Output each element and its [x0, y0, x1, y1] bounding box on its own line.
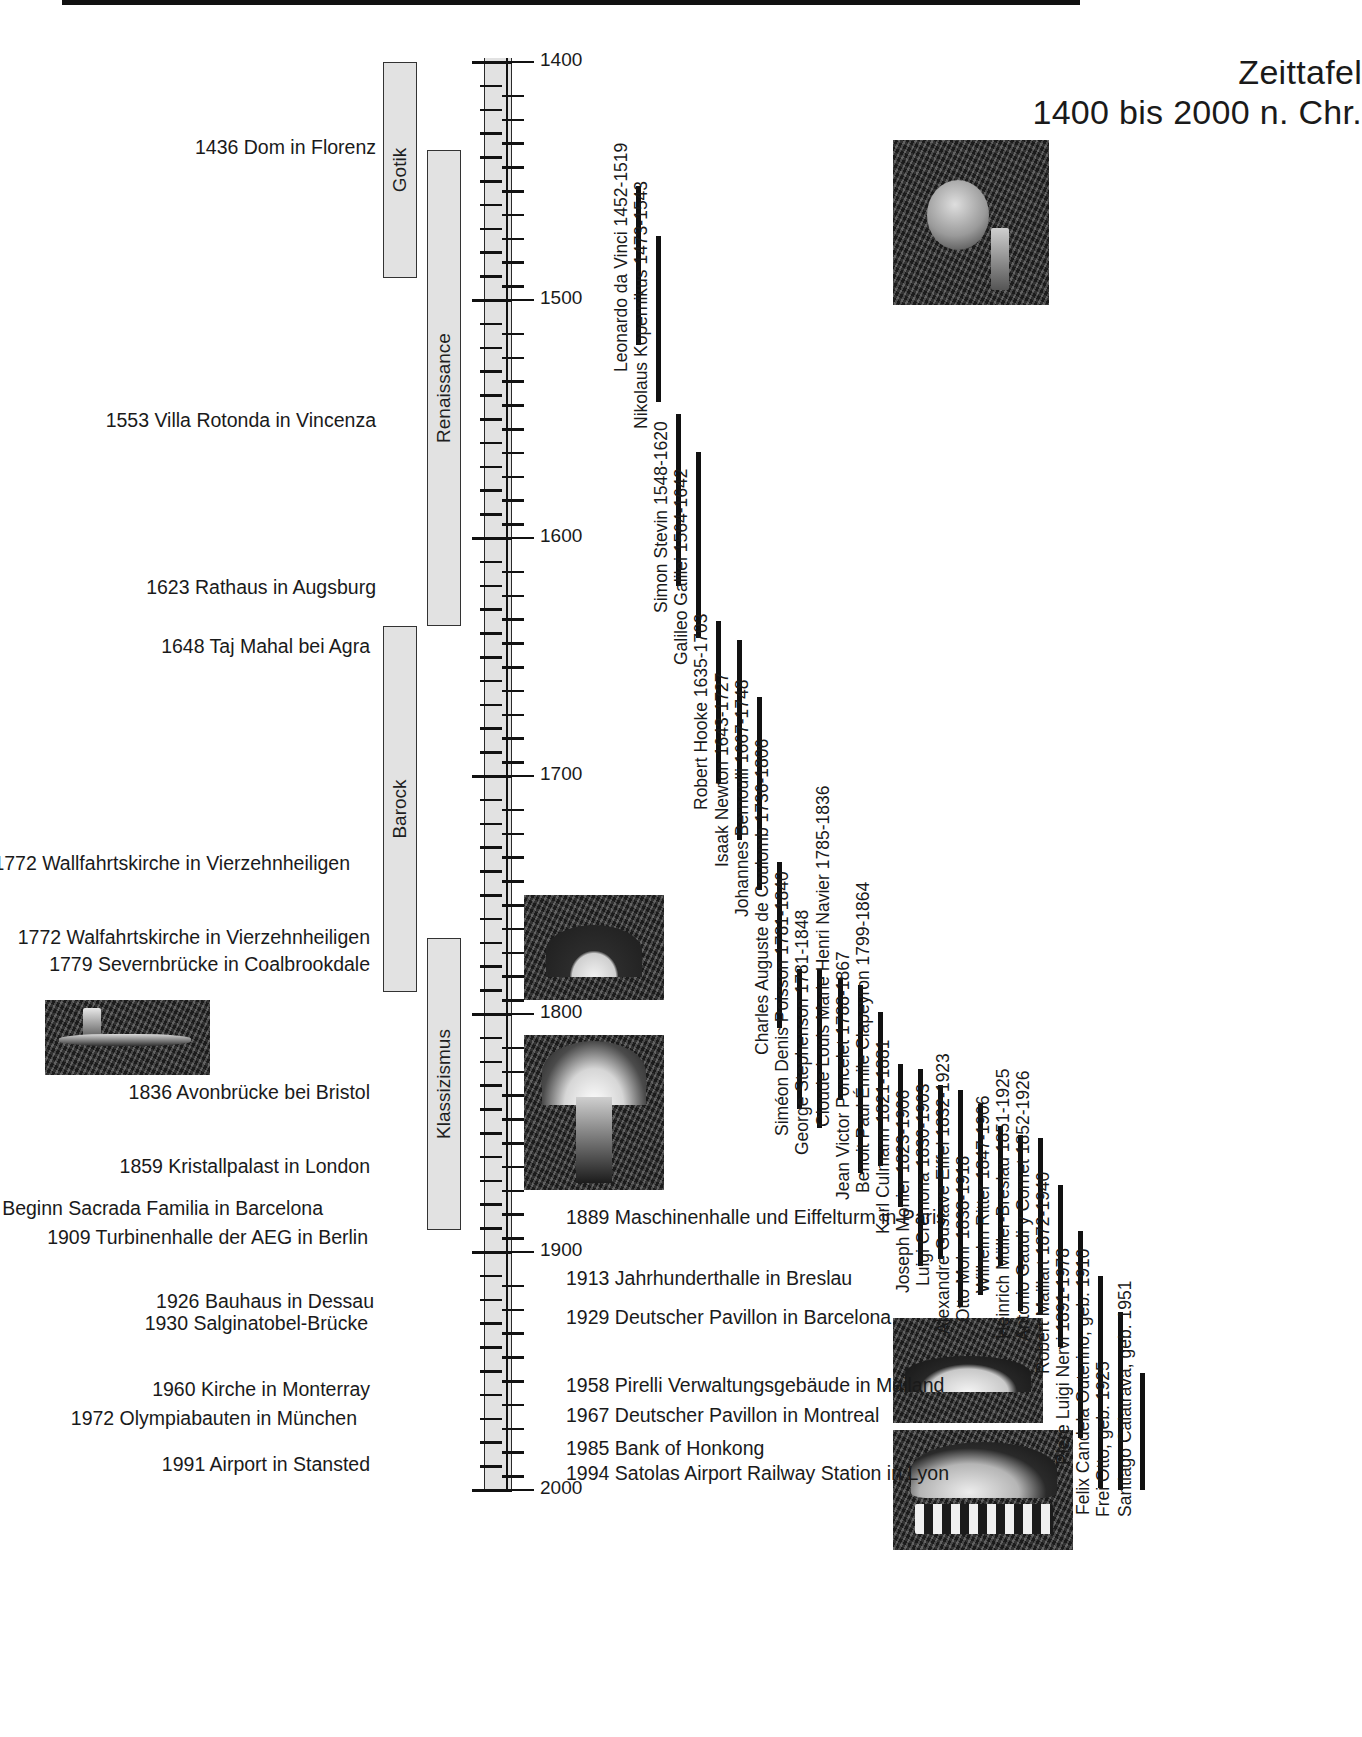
event-label-left: 1991 Airport in Stansted: [162, 1453, 370, 1476]
timeline-tick-minor: [502, 904, 524, 907]
person-name-label: Isaak Newton 1643-1727: [712, 673, 733, 868]
header-rule: [62, 0, 1080, 5]
event-label-left: 1972 Olympiabauten in München: [71, 1407, 357, 1430]
timeline-tick-minor: [480, 942, 502, 945]
tick-leader-line: [506, 61, 534, 63]
timeline-tick-minor: [480, 1370, 502, 1373]
event-label-right: 1958 Pirelli Verwaltungsgebäude in Maila…: [566, 1374, 944, 1397]
timeline-tick-minor: [502, 880, 524, 883]
tick-leader-line: [506, 299, 534, 301]
timeline-tick-minor: [480, 323, 502, 326]
person-name-label: Nikolaus Kopernikus 1473-1543: [631, 181, 652, 429]
era-bar-klassizismus: Klassizismus: [427, 938, 461, 1230]
title-line-2: 1400 bis 2000 n. Chr.: [1032, 92, 1362, 132]
timeline-tick-minor: [502, 190, 524, 193]
timeline-tick-label: 1600: [540, 525, 582, 547]
timeline-tick-minor: [502, 1285, 524, 1288]
event-label-right: 1994 Satolas Airport Railway Station in …: [566, 1462, 949, 1485]
event-label-left: 1648 Taj Mahal bei Agra: [161, 635, 370, 658]
timeline-tick-minor: [480, 846, 502, 849]
timeline-tick-minor: [502, 166, 524, 169]
timeline-tick-minor: [502, 119, 524, 122]
timeline-tick-minor: [502, 1451, 524, 1454]
page-title: Zeittafel 1400 bis 2000 n. Chr.: [1032, 52, 1362, 132]
timeline-tick-minor: [502, 856, 524, 859]
person-lifespan-bar: [696, 452, 701, 638]
timeline-tick-minor: [502, 1142, 524, 1145]
timeline-tick-label: 1900: [540, 1239, 582, 1261]
timeline-tick-minor: [502, 333, 524, 336]
person-name-label: Charles Auguste de Coulomb 1736-1806: [752, 739, 773, 1055]
person-name-label: Jean Victor Poncelet 1788-1867: [833, 952, 854, 1201]
person-name-label: George Stephenson 1781-1848: [792, 910, 813, 1155]
person-name-label: Leonardo da Vinci 1452-1519: [611, 143, 632, 372]
timeline-tick-minor: [502, 737, 524, 740]
timeline-tick-minor: [480, 1227, 502, 1230]
timeline-tick-minor: [502, 238, 524, 241]
timeline-tick-minor: [502, 571, 524, 574]
timeline-tick-minor: [502, 1047, 524, 1050]
timeline-tick-minor: [502, 618, 524, 621]
person-lifespan-bar: [1140, 1373, 1145, 1490]
timeline-tick-minor: [480, 632, 502, 635]
timeline-tick-minor: [480, 727, 502, 730]
tick-leader-line: [506, 537, 534, 539]
timeline-tick-minor: [480, 870, 502, 873]
timeline-tick-minor: [502, 952, 524, 955]
timeline-tick-minor: [502, 380, 524, 383]
person-name-label: Santiago Calatrava, geb. 1951: [1115, 1281, 1136, 1517]
timeline-tick-minor: [502, 714, 524, 717]
timeline-tick-minor: [480, 513, 502, 516]
event-label-left: 1960 Kirche in Monterray: [152, 1378, 370, 1401]
person-name-label: Siméon Denis Poisson 1781-1840: [772, 872, 793, 1137]
person-name-label: Simon Stevin 1548-1620: [651, 421, 672, 613]
timeline-tick-minor: [502, 1094, 524, 1097]
timeline-axis: [506, 58, 508, 1490]
timeline-tick-minor: [480, 1084, 502, 1087]
timeline-tick-minor: [480, 442, 502, 445]
timeline-tick-minor: [480, 561, 502, 564]
person-name-label: Benoit Paul Émile Clapeyron 1799-1864: [853, 882, 874, 1193]
person-name-label: Heinrich Müller-Breslau 1851-1925: [993, 1068, 1014, 1338]
person-name-label: Galileo Galilei 1564-1642: [671, 468, 692, 665]
timeline-tick-minor: [502, 1237, 524, 1240]
timeline-tick-minor: [480, 704, 502, 707]
era-label: Barock: [389, 780, 411, 839]
avonbruecke-photo: [45, 1000, 210, 1075]
person-name-label: Felix Candela Outerino, geb. 1910: [1073, 1248, 1094, 1515]
timeline-tick-minor: [502, 1332, 524, 1335]
event-label-left: 1553 Villa Rotonda in Vincenza: [106, 409, 376, 432]
timeline-tick-minor: [502, 1309, 524, 1312]
timeline-tick-minor: [480, 228, 502, 231]
timeline-tick-label: 1700: [540, 763, 582, 785]
event-label-right: 1985 Bank of Honkong: [566, 1437, 764, 1460]
timeline-tick-minor: [480, 823, 502, 826]
timeline-tick-minor: [480, 1465, 502, 1468]
timeline-tick-label: 1400: [540, 49, 582, 71]
timeline-tick-minor: [502, 999, 524, 1002]
timeline-tick-minor: [502, 499, 524, 502]
timeline-tick-minor: [502, 285, 524, 288]
dom-in-florenz-photo: [893, 140, 1049, 305]
timeline-tick-minor: [502, 428, 524, 431]
person-name-label: Cloude Louis Marie Henri Navier 1785-183…: [813, 785, 834, 1126]
timeline-tick-minor: [480, 180, 502, 183]
timeline-tick-minor: [502, 809, 524, 812]
timeline-tick-minor: [480, 466, 502, 469]
timeline-tick-minor: [480, 370, 502, 373]
event-label-left: 1772 Wallfahrtskirche in Vierzehnheilige…: [0, 852, 350, 875]
timeline-tick-minor: [502, 523, 524, 526]
person-name-label: Joseph Monier 1823-1906: [893, 1090, 914, 1293]
person-name-label: Otto Mohr 1838-1918: [953, 1155, 974, 1321]
event-label-left: 1909 Turbinenhalle der AEG in Berlin: [47, 1226, 368, 1249]
title-line-1: Zeittafel: [1032, 52, 1362, 92]
timeline-tick-label: 1800: [540, 1001, 582, 1023]
event-label-left: 1859 Kristallpalast in London: [120, 1155, 370, 1178]
timeline-tick-minor: [480, 1394, 502, 1397]
timeline-tick-minor: [480, 347, 502, 350]
event-label-left: 1436 Dom in Florenz: [195, 136, 376, 159]
satolas-station-photo: [893, 1430, 1073, 1550]
timeline-tick-minor: [480, 1061, 502, 1064]
timeline-tick-minor: [480, 418, 502, 421]
era-bar-barock: Barock: [383, 626, 417, 992]
